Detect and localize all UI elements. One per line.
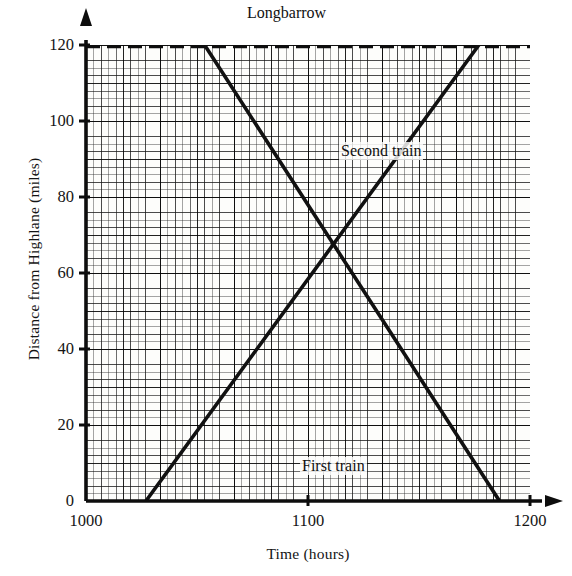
y-axis-arrowhead [80,8,92,26]
distance-time-graph: Distance from Highlane (miles) 120 100 8… [0,0,572,576]
axis-layer [0,0,572,576]
x-axis-arrowhead [545,495,563,507]
